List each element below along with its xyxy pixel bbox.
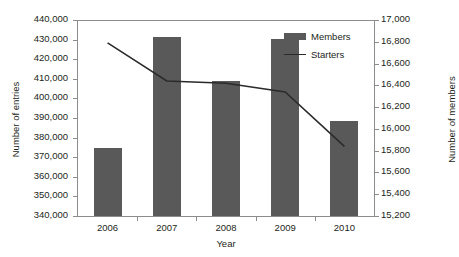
y-axis-right-tick-label: 16,400 <box>381 79 410 89</box>
x-axis-tick <box>256 217 257 221</box>
bar <box>212 81 240 216</box>
y-axis-right-tick <box>375 216 379 217</box>
y-axis-left-tick-label: 420,000 <box>34 53 68 63</box>
x-axis-tick-label: 2006 <box>78 222 138 233</box>
y-axis-left-tick <box>73 118 77 119</box>
bar <box>330 121 358 216</box>
legend-item-starters: Starters <box>284 45 351 63</box>
y-axis-right-tick <box>375 172 379 173</box>
y-axis-right-tick <box>375 20 379 21</box>
y-axis-right-tick <box>375 194 379 195</box>
y-axis-right-tick-label: 15,800 <box>381 145 410 155</box>
x-axis-tick-label: 2009 <box>255 222 315 233</box>
chart-container: Number of entries Number of members Year… <box>0 0 459 257</box>
y-axis-right-tick <box>375 85 379 86</box>
y-axis-left-tick-label: 370,000 <box>34 151 68 161</box>
y-axis-left-tick <box>73 196 77 197</box>
legend-label-starters: Starters <box>311 49 344 60</box>
chart-legend: Members Starters <box>284 27 351 63</box>
y-axis-left-tick <box>73 138 77 139</box>
bar <box>271 39 299 216</box>
y-axis-left-tick <box>73 79 77 80</box>
y-axis-left-tick-label: 440,000 <box>34 14 68 24</box>
y-axis-left-tick <box>73 98 77 99</box>
bar <box>94 148 122 216</box>
x-axis-line <box>78 216 374 217</box>
y-axis-left-title: Number of entries <box>10 61 21 179</box>
y-axis-left-tick <box>73 59 77 60</box>
y-axis-left-tick-label: 380,000 <box>34 132 68 142</box>
y-axis-left-tick-label: 390,000 <box>34 112 68 122</box>
legend-line-swatch-icon <box>284 54 306 55</box>
y-axis-right-title: Number of members <box>446 54 457 186</box>
x-axis-tick-label: 2007 <box>137 222 197 233</box>
y-axis-left-tick-label: 360,000 <box>34 171 68 181</box>
y-axis-left-tick <box>73 177 77 178</box>
y-axis-right-tick-label: 16,000 <box>381 123 410 133</box>
x-axis-tick-label: 2010 <box>314 222 374 233</box>
y-axis-left-tick-label: 410,000 <box>34 73 68 83</box>
y-axis-left-tick <box>73 20 77 21</box>
y-axis-right-tick <box>375 151 379 152</box>
y-axis-left-line <box>77 20 78 217</box>
y-axis-right-tick <box>375 129 379 130</box>
y-axis-right-tick-label: 15,400 <box>381 188 410 198</box>
x-axis-tick <box>315 217 316 221</box>
y-axis-left-tick-label: 350,000 <box>34 190 68 200</box>
y-axis-right-line <box>374 20 375 217</box>
y-axis-right-tick-label: 16,800 <box>381 36 410 46</box>
y-axis-left-tick-label: 400,000 <box>34 92 68 102</box>
y-axis-right-tick-label: 17,000 <box>381 14 410 24</box>
y-axis-left-tick-label: 430,000 <box>34 34 68 44</box>
y-axis-left-tick <box>73 40 77 41</box>
legend-item-members: Members <box>284 27 351 45</box>
y-axis-left-tick <box>73 216 77 217</box>
y-axis-right-tick-label: 15,200 <box>381 210 410 220</box>
y-axis-right-tick <box>375 64 379 65</box>
x-axis-title: Year <box>78 238 374 249</box>
y-axis-left-tick <box>73 157 77 158</box>
y-axis-right-tick <box>375 42 379 43</box>
y-axis-left-tick-label: 340,000 <box>34 210 68 220</box>
x-axis-tick-label: 2008 <box>196 222 256 233</box>
bar <box>153 37 181 216</box>
x-axis-tick <box>137 217 138 221</box>
x-axis-tick <box>196 217 197 221</box>
legend-bar-swatch-icon <box>284 33 306 40</box>
legend-label-members: Members <box>311 31 351 42</box>
y-axis-right-tick-label: 15,600 <box>381 166 410 176</box>
y-axis-right-tick <box>375 107 379 108</box>
y-axis-right-tick-label: 16,600 <box>381 58 410 68</box>
y-axis-right-tick-label: 16,200 <box>381 101 410 111</box>
